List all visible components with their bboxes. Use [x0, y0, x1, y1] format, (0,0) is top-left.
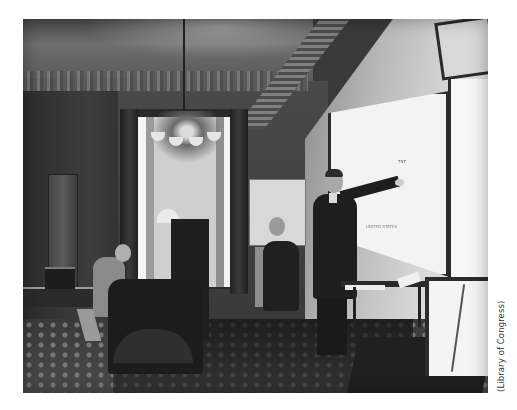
photo-credit: (Library of Congress)	[496, 301, 506, 392]
photo-vignette	[23, 19, 488, 393]
historical-photograph: TNT UNITED STATES	[23, 19, 488, 393]
